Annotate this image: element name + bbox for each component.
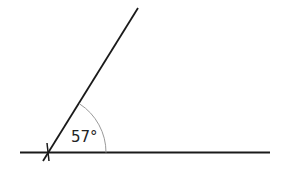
angle-diagram: 57° [0, 0, 285, 174]
angle-label: 57° [71, 128, 98, 146]
vertex-tick [47, 143, 49, 161]
